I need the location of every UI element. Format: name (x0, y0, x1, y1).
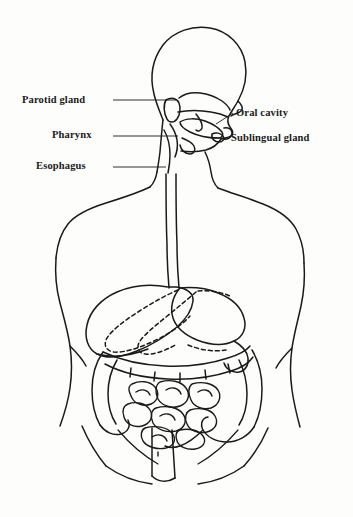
shoulder-right (218, 188, 304, 263)
small-intestine-coil-5 (151, 407, 185, 432)
parotid-gland-shape (164, 98, 180, 122)
esophagus-left-wall (166, 174, 169, 288)
soft-palate-uvula (196, 114, 202, 131)
small-intestine-coil-2 (156, 381, 188, 408)
stomach-dashed-fundus (198, 291, 232, 297)
small-intestine-coil-4 (123, 403, 152, 427)
hard-palate (178, 111, 228, 118)
small-intestine-coil-7 (141, 427, 174, 449)
label-parotid-gland: Parotid gland (22, 95, 85, 106)
stomach-outline (172, 288, 245, 345)
head-outline (152, 27, 246, 139)
descending-colon-outer (252, 350, 262, 427)
label-pharynx: Pharynx (52, 130, 92, 141)
small-intestine-coil-1 (129, 382, 158, 406)
pharynx-cavity (170, 124, 177, 157)
torso-left-side (56, 258, 72, 426)
small-intestine-squiggle-d (160, 414, 175, 420)
pubic-arch (152, 476, 175, 481)
transverse-colon-upper (103, 346, 250, 366)
stomach-dashed-greater-curve (105, 290, 190, 352)
stomach-dashed-antrum (188, 345, 226, 351)
neck-right-line (205, 152, 218, 188)
label-sublingual-gland: Sublingual gland (231, 133, 310, 144)
mesentery-line-right (198, 430, 238, 464)
anatomy-illustration (0, 0, 353, 517)
small-intestine-squiggle-c (198, 390, 212, 396)
groin-left (106, 466, 152, 484)
digestive-system-figure: Parotid gland Pharynx Esophagus Oral cav… (0, 0, 353, 517)
body-outline-group (56, 27, 305, 484)
liver-outline (86, 285, 193, 356)
waist-right-indent (276, 348, 292, 368)
shoulder-left (56, 187, 150, 258)
groin-right (198, 466, 244, 484)
nasal-cavity (179, 93, 230, 110)
hip-left-line (82, 426, 106, 466)
small-intestine-group (123, 381, 220, 450)
label-oral-cavity: Oral cavity (236, 108, 288, 119)
descending-colon-inner (239, 360, 247, 425)
label-esophagus: Esophagus (36, 161, 86, 172)
torso-right-side (291, 263, 305, 427)
small-intestine-squiggle-a (136, 390, 150, 395)
small-intestine-coil-8 (176, 429, 205, 449)
neck-left-line (150, 172, 157, 187)
small-intestine-squiggle-b (166, 388, 181, 394)
neck-back-line (157, 120, 163, 172)
ascending-colon-outer (92, 352, 103, 425)
small-intestine-coil-3 (189, 383, 220, 409)
pylorus-duodenum (224, 341, 248, 372)
esophagus-right-wall (176, 174, 179, 288)
waist-left-indent (70, 346, 86, 366)
small-intestine-squiggle-e (152, 435, 167, 441)
sigmoid-colon (202, 417, 254, 442)
